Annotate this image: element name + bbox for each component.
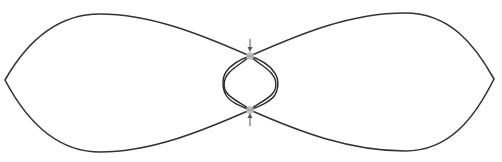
inner-strand-left-b: [224, 56, 250, 110]
bottom-crossing-node: [246, 106, 254, 114]
right-lobe-curve: [250, 13, 494, 151]
left-lobe-curve: [5, 14, 250, 152]
inner-strand-left-a: [223, 56, 250, 110]
top-crossing-node: [246, 52, 254, 60]
inner-strand-right-b: [250, 56, 276, 110]
figure-eight-diagram: [0, 0, 502, 162]
inner-strand-right-a: [250, 56, 278, 110]
bottom-arrow-icon: [248, 113, 253, 126]
top-arrow-icon: [248, 39, 253, 52]
diagram-canvas: Figure-eight (lemniscate-like) closed cu…: [0, 0, 502, 162]
